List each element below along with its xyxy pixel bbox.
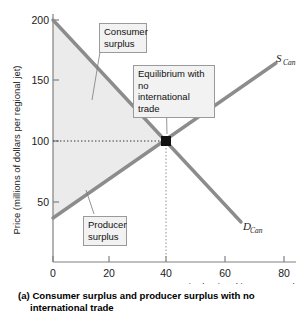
supply-curve-label: S Can <box>276 52 296 67</box>
figure-caption-line-2: international trade <box>18 302 298 314</box>
demand-curve-label-subscript: Can <box>250 226 263 235</box>
x-tick-label-20: 20 <box>103 267 115 279</box>
supply-curve-label-letter: S <box>276 52 282 64</box>
x-axis-title: Quantity (regional jets per year) <box>163 281 296 284</box>
y-tick-label-200: 200 <box>31 14 49 26</box>
y-tick-label-50: 50 <box>37 196 49 208</box>
y-tick-label-150: 150 <box>31 74 49 86</box>
x-tick-label-80: 80 <box>278 267 290 279</box>
y-tick-label-100: 100 <box>31 135 49 147</box>
demand-curve-label: D Can <box>242 220 263 235</box>
figure-caption-line-1: (a) Consumer surplus and producer surplu… <box>18 290 255 301</box>
consumer-surplus-callout: Consumer surplus <box>99 23 147 53</box>
producer-surplus-callout: Producer surplus <box>83 216 127 246</box>
figure-caption: (a) Consumer surplus and producer surplu… <box>18 290 298 313</box>
x-tick-label-40: 40 <box>160 267 172 279</box>
x-tick-label-60: 60 <box>219 267 231 279</box>
equilibrium-callout: Equilibrium with no international trade <box>133 65 215 118</box>
figure-panel: 200 150 100 50 0 20 40 60 80 Price (mill… <box>0 0 304 324</box>
supply-curve-label-subscript: Can <box>283 58 296 67</box>
y-axis-title: Price (millions of dollars per regional … <box>11 66 22 235</box>
supply-demand-chart: 200 150 100 50 0 20 40 60 80 Price (mill… <box>0 0 304 284</box>
equilibrium-marker <box>161 136 171 146</box>
x-tick-label-0: 0 <box>50 267 56 279</box>
